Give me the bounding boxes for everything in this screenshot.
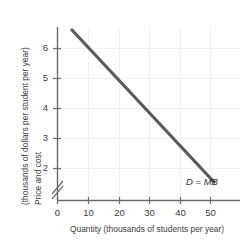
chart-figure: 6 5 4 3 2 0 10 20 30 40 50 Quantity (tho… bbox=[0, 0, 244, 241]
y-axis-title-line2: (thousands of dollars per student per ye… bbox=[20, 47, 30, 205]
y-axis-title-line1: Price and cost bbox=[33, 152, 43, 205]
x-tick-label-40: 40 bbox=[171, 208, 191, 218]
grid-horizontal bbox=[57, 49, 240, 169]
x-tick-label-20: 20 bbox=[110, 208, 130, 218]
curve-label-demand-mb: D = MB bbox=[186, 176, 218, 187]
x-tick-label-0: 0 bbox=[48, 208, 68, 218]
x-tick-label-10: 10 bbox=[79, 208, 99, 218]
demand-mb-line bbox=[72, 30, 214, 182]
x-axis-title: Quantity (thousands of students per year… bbox=[52, 224, 242, 234]
x-tick-label-50: 50 bbox=[201, 208, 221, 218]
x-tick-label-30: 30 bbox=[140, 208, 160, 218]
y-axis-title: Price and cost (thousands of dollars per… bbox=[0, 0, 44, 210]
